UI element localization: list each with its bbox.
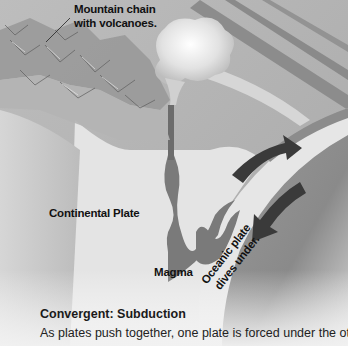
figure-caption: Convergent: Subduction As plates push to…	[40, 306, 348, 341]
caption-title: Convergent: Subduction	[40, 306, 348, 322]
continental-plate-label: Continental Plate	[49, 206, 140, 220]
mountain-chain-label: Mountain chain with volcanoes.	[74, 2, 157, 30]
volcanic-vent	[168, 105, 174, 160]
subduction-diagram: Mountain chain with volcanoes. Continent…	[0, 0, 348, 346]
subduction-illustration	[0, 0, 348, 346]
mountain-chain-label-line1: Mountain chain	[74, 2, 157, 16]
magma-label: Magma	[154, 265, 193, 279]
caption-description: As plates push together, one plate is fo…	[40, 325, 348, 341]
mountain-chain-label-line2: with volcanoes.	[74, 16, 157, 30]
